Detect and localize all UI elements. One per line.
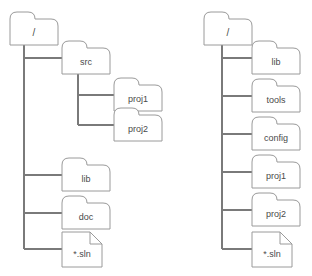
- node-proj2-right[interactable]: proj2: [252, 193, 300, 226]
- file-corner-fold-icon: [90, 232, 102, 244]
- node-label: /: [33, 27, 36, 38]
- node-label: doc: [79, 212, 94, 222]
- node-proj1-right[interactable]: proj1: [252, 155, 300, 188]
- node-doc[interactable]: doc: [62, 196, 110, 229]
- directory-tree-diagram: / src proj1 proj2 lib: [0, 0, 312, 276]
- node-label: tools: [266, 95, 286, 105]
- right-tree-connectors: [222, 45, 252, 249]
- node-label: proj2: [266, 209, 286, 219]
- right-tree: / lib tools config proj1: [204, 12, 300, 267]
- node-sln-left[interactable]: *.sln: [62, 232, 102, 267]
- node-label: lib: [81, 174, 90, 184]
- node-proj2-left[interactable]: proj2: [114, 108, 162, 141]
- node-sln-right[interactable]: *.sln: [252, 232, 292, 267]
- node-lib-left[interactable]: lib: [62, 158, 110, 191]
- tree-canvas: / src proj1 proj2 lib: [0, 0, 312, 276]
- file-corner-fold-icon: [280, 232, 292, 244]
- node-label: *.sln: [73, 249, 91, 259]
- node-label: /: [227, 27, 230, 38]
- node-proj1-left[interactable]: proj1: [114, 78, 162, 111]
- node-root-left[interactable]: /: [10, 12, 58, 45]
- node-root-right[interactable]: /: [204, 12, 252, 45]
- node-label: proj1: [128, 94, 148, 104]
- node-label: lib: [271, 57, 280, 67]
- node-label: *.sln: [263, 249, 281, 259]
- node-lib-right[interactable]: lib: [252, 41, 300, 74]
- node-tools[interactable]: tools: [252, 79, 300, 112]
- node-label: proj1: [266, 171, 286, 181]
- node-label: config: [264, 133, 288, 143]
- node-label: src: [80, 57, 92, 67]
- left-tree: / src proj1 proj2 lib: [10, 12, 162, 267]
- node-label: proj2: [128, 124, 148, 134]
- node-config[interactable]: config: [252, 117, 300, 150]
- node-src[interactable]: src: [62, 41, 110, 74]
